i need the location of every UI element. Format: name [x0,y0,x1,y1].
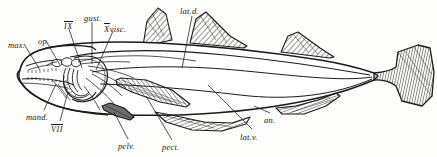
label-pelv: pelv. [118,142,135,151]
label-gust: gust. [84,14,101,23]
label-mand: mand. [26,113,48,122]
label-op: op. [38,37,49,46]
label-pect: pect. [162,143,179,152]
label-nerve-vii: VII [51,124,63,134]
fish-body-group [17,8,434,140]
dorsal-fin-1 [143,8,172,46]
dorsal-fin-2 [190,12,247,48]
label-lat-d: lat.d. [180,7,199,16]
figure-canvas: max. op. IX gust. Xvisc. lat.d. mand. VI… [0,0,437,157]
label-x-visc: Xvisc. [104,23,126,33]
label-an: an. [264,116,275,125]
label-nerve-ix: IX [64,21,73,31]
caudal-fin [374,45,434,106]
anal-fin-1 [155,112,250,131]
label-max: max. [8,41,25,50]
label-x-visc-text: visc. [110,24,126,34]
dorsal-fin-3 [281,32,334,58]
label-lat-v: lat.v. [240,133,258,142]
